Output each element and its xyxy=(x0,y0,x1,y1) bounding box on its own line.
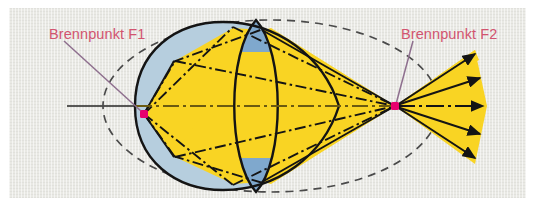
label-brennpunkt-f2: Brennpunkt F2 xyxy=(401,26,497,42)
figure-canvas: Brennpunkt F1 Brennpunkt F2 xyxy=(0,0,535,206)
figure-panel: Brennpunkt F1 Brennpunkt F2 xyxy=(9,8,526,198)
focus-dot-f2 xyxy=(391,102,399,110)
label-brennpunkt-f1: Brennpunkt F1 xyxy=(49,26,145,42)
focus-dot-f1 xyxy=(140,110,148,118)
